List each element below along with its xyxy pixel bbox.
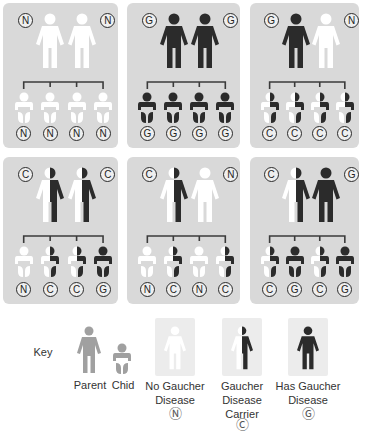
child-status-badge: N	[16, 126, 31, 141]
child-figure-C	[335, 92, 355, 124]
cross-panel-4: C C N C	[3, 157, 118, 304]
key-figure-N	[163, 326, 187, 370]
child-figure-G	[285, 246, 305, 278]
parent-status-badge: N	[18, 13, 33, 28]
parent-key-label: Parent	[70, 378, 110, 392]
child-status-badge: G	[96, 282, 111, 297]
parent-status-badge: G	[142, 13, 157, 28]
child-figure-C	[310, 92, 330, 124]
key-status-symbol: Ⓝ	[165, 403, 185, 422]
parent-status-badge: C	[142, 167, 157, 182]
cross-panel-5: C N N C	[127, 157, 240, 304]
child-figure-C	[310, 246, 330, 278]
parent-key-icon	[76, 326, 102, 374]
child-figure-N	[67, 92, 87, 124]
key-figure-C	[230, 326, 254, 370]
child-status-badge: G	[166, 126, 181, 141]
child-status-badge: N	[69, 126, 84, 141]
parent-status-badge: C	[100, 167, 115, 182]
parent-figure-C	[67, 167, 97, 223]
key-label-line: Has Gaucher	[268, 379, 348, 393]
key-swatch-N	[155, 318, 195, 376]
parent-status-badge: N	[344, 13, 359, 28]
child-status-badge: C	[337, 126, 352, 141]
child-status-badge: G	[140, 126, 155, 141]
child-status-badge: C	[218, 282, 233, 297]
parent-figure-C	[281, 167, 311, 223]
cross-panel-1: N N N N	[3, 3, 118, 148]
child-status-badge: G	[218, 126, 233, 141]
cross-panel-6: C G C G	[250, 157, 359, 304]
parent-figure-G	[159, 13, 189, 69]
child-status-badge: C	[312, 282, 327, 297]
child-status-badge: C	[166, 282, 181, 297]
parent-status-badge: C	[18, 167, 33, 182]
key-figure-G	[296, 326, 320, 370]
parent-figure-N	[190, 167, 220, 223]
child-figure-G	[137, 92, 157, 124]
key-title: Key	[28, 345, 58, 359]
parent-status-badge: G	[344, 167, 359, 182]
child-status-badge: C	[69, 282, 84, 297]
child-figure-C	[67, 246, 87, 278]
child-status-badge: N	[16, 282, 31, 297]
offspring-bracket	[3, 79, 118, 91]
key-swatch-C	[222, 318, 262, 376]
child-figure-C	[40, 246, 60, 278]
child-figure-C	[285, 92, 305, 124]
offspring-bracket	[127, 233, 240, 245]
child-status-badge: G	[192, 126, 207, 141]
cross-panel-3: G N C C	[250, 3, 359, 148]
key-status-symbol: Ⓒ	[232, 414, 252, 433]
key-swatch-G	[288, 318, 328, 376]
parent-figure-G	[281, 13, 311, 69]
offspring-bracket	[127, 79, 240, 91]
parent-figure-G	[311, 167, 341, 223]
child-status-badge: N	[96, 126, 111, 141]
parent-status-badge: N	[223, 167, 238, 182]
child-figure-C	[215, 246, 235, 278]
child-status-badge: C	[43, 282, 58, 297]
parent-status-badge: N	[100, 13, 115, 28]
child-status-badge: N	[43, 126, 58, 141]
parent-status-badge: G	[264, 13, 279, 28]
child-figure-G	[189, 92, 209, 124]
offspring-bracket	[3, 233, 118, 245]
child-figure-N	[14, 246, 34, 278]
cross-panel-2: G G G G	[127, 3, 240, 148]
child-figure-G	[215, 92, 235, 124]
child-status-badge: C	[312, 126, 327, 141]
parent-figure-C	[35, 167, 65, 223]
child-status-badge: G	[337, 282, 352, 297]
parent-figure-N	[35, 13, 65, 69]
parent-status-badge: G	[223, 13, 238, 28]
child-figure-G	[93, 246, 113, 278]
child-status-badge: G	[287, 282, 302, 297]
parent-figure-G	[190, 13, 220, 69]
child-figure-N	[189, 246, 209, 278]
child-figure-C	[260, 246, 280, 278]
child-status-badge: C	[262, 126, 277, 141]
parent-status-badge: C	[264, 167, 279, 182]
child-figure-N	[40, 92, 60, 124]
child-figure-N	[137, 246, 157, 278]
child-key-icon	[112, 343, 132, 375]
child-figure-C	[163, 246, 183, 278]
parent-figure-C	[159, 167, 189, 223]
child-status-badge: N	[192, 282, 207, 297]
child-figure-G	[163, 92, 183, 124]
child-figure-G	[335, 246, 355, 278]
key-status-symbol: Ⓖ	[298, 403, 318, 422]
parent-figure-N	[311, 13, 341, 69]
child-figure-N	[93, 92, 113, 124]
child-status-badge: N	[140, 282, 155, 297]
parent-figure-N	[67, 13, 97, 69]
offspring-bracket	[250, 79, 359, 91]
child-status-badge: C	[287, 126, 302, 141]
child-figure-C	[260, 92, 280, 124]
child-figure-N	[14, 92, 34, 124]
child-status-badge: C	[262, 282, 277, 297]
offspring-bracket	[250, 233, 359, 245]
